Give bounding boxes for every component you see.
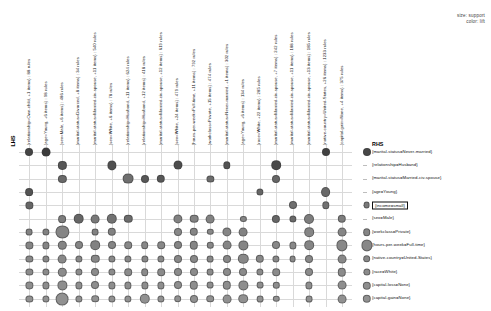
rhs-tick-2 xyxy=(363,179,367,180)
rhs-label-3[interactable]: {age=Young} xyxy=(372,190,397,194)
rhs-label-0[interactable]: {marital-status=Never-married} xyxy=(372,150,432,154)
rhs-label-8[interactable]: {native-country=United-States} xyxy=(372,256,432,260)
grouped-matrix-plot: size: support color: lift LHS {relations… xyxy=(0,0,491,311)
rhs-key-bubble xyxy=(362,281,370,289)
rhs-key-bubble xyxy=(363,148,371,156)
rhs-key-bubble xyxy=(363,255,371,263)
rhs-label-6[interactable]: {workclass=Private} xyxy=(372,230,411,234)
rhs-label-10[interactable]: {capital-loss=None} xyxy=(372,283,410,287)
rhs-key-bubble xyxy=(363,269,370,276)
rhs-label-4[interactable]: {income=small} xyxy=(372,202,408,210)
rhs-key-bubble xyxy=(361,240,372,251)
rhs-key-bubble xyxy=(363,202,370,209)
rhs-label-9[interactable]: {race=White} xyxy=(372,270,397,274)
rhs-tick-3 xyxy=(363,192,367,193)
rhs-key-bubble xyxy=(363,228,371,236)
rhs-axis-labels: {marital-status=Never-married}{relations… xyxy=(0,0,491,311)
rhs-label-1[interactable]: {relationship=Husband} xyxy=(372,163,418,167)
rhs-label-5[interactable]: {sex=Male} xyxy=(372,216,394,220)
rhs-key-bubble xyxy=(362,295,370,303)
rhs-label-7[interactable]: {hours-per-week=Full-time} xyxy=(372,243,425,247)
rhs-tick-1 xyxy=(363,165,367,166)
rhs-label-11[interactable]: {capital-gain=None} xyxy=(372,296,411,300)
rhs-label-2[interactable]: {marital-status=Married-civ-spouse} xyxy=(372,176,441,180)
rhs-tick-5 xyxy=(363,219,367,220)
